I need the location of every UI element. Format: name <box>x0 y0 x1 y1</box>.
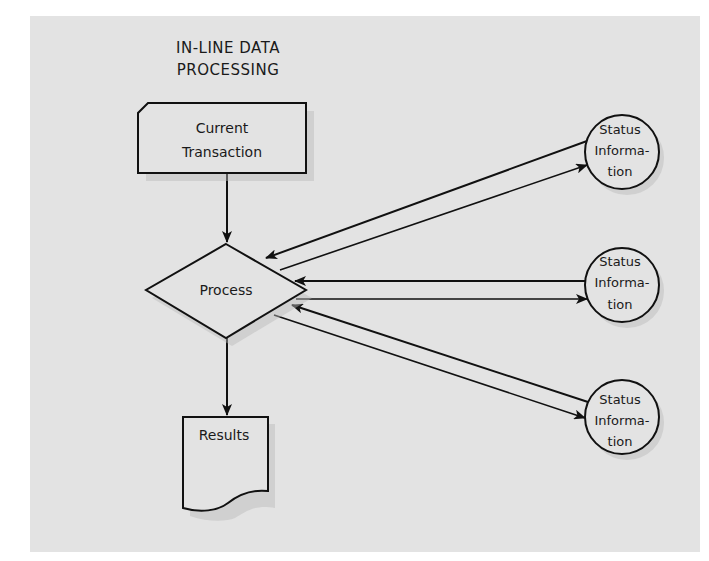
status1-line-1: Status <box>599 122 641 137</box>
title-line-1: IN-LINE DATA <box>176 39 280 57</box>
process-label: Process <box>199 282 252 298</box>
node-results[interactable]: Results <box>183 417 275 521</box>
status2-line-3: tion <box>608 297 633 312</box>
transaction-label-line-1: Current <box>196 120 249 136</box>
status2-line-2: Informa- <box>594 275 649 290</box>
transaction-label-line-2: Transaction <box>181 144 262 160</box>
status2-line-1: Status <box>599 254 641 269</box>
status3-line-2: Informa- <box>594 413 649 428</box>
card-shape <box>138 103 306 173</box>
results-label: Results <box>199 427 250 443</box>
diagram-canvas: IN-LINE DATA PROCESSING Current Transact… <box>0 0 709 561</box>
status3-line-3: tion <box>608 434 633 449</box>
status3-line-1: Status <box>599 392 641 407</box>
node-current-transaction[interactable]: Current Transaction <box>138 103 314 181</box>
status1-line-3: tion <box>608 164 633 179</box>
title-line-2: PROCESSING <box>177 61 280 79</box>
status1-line-2: Informa- <box>594 143 649 158</box>
